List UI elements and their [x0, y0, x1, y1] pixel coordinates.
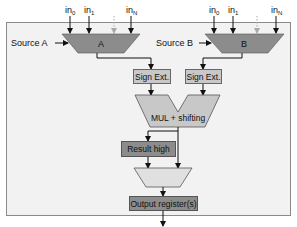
- source-b-label: Source B: [156, 38, 193, 48]
- sign-ext-a-label: Sign Ext.: [135, 72, 169, 82]
- mul-datapath-diagram: in0 in1 inN A Source A in0 in1 inN B Sou…: [0, 0, 297, 227]
- mux-b-label: B: [241, 39, 247, 49]
- input-b-n-label: inN: [271, 5, 282, 16]
- mul-unit-label: MUL + shifting: [151, 113, 206, 123]
- input-a-n-label: inN: [126, 5, 137, 16]
- mux-a-label: A: [98, 39, 104, 49]
- input-a-0-label: in0: [65, 5, 76, 16]
- input-a-1-label: in1: [84, 5, 95, 16]
- output-register-label: Output register(s): [130, 199, 196, 209]
- source-a-label: Source A: [11, 38, 48, 48]
- result-high-label: Result high: [127, 144, 170, 154]
- input-b-0-label: in0: [209, 5, 220, 16]
- input-b-1-label: in1: [228, 5, 239, 16]
- sign-ext-b-label: Sign Ext.: [186, 72, 220, 82]
